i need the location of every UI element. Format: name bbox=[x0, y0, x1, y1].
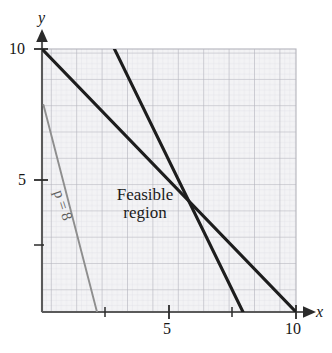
y-tick-label-10: 10 bbox=[9, 40, 25, 58]
feasible-region-figure: y x 10 5 5 10 Feasible region p = 8 bbox=[0, 0, 332, 353]
y-axis-label: y bbox=[38, 9, 45, 27]
feasible-region-label: Feasible region bbox=[97, 186, 193, 223]
x-tick-label-5: 5 bbox=[163, 320, 171, 338]
x-axis-label: x bbox=[316, 303, 323, 321]
feasible-region-label-line2: region bbox=[97, 204, 193, 222]
y-tick-label-5: 5 bbox=[18, 171, 26, 189]
feasible-region-label-line1: Feasible bbox=[97, 186, 193, 204]
graph-canvas bbox=[0, 0, 332, 353]
x-tick-label-10: 10 bbox=[285, 320, 301, 338]
